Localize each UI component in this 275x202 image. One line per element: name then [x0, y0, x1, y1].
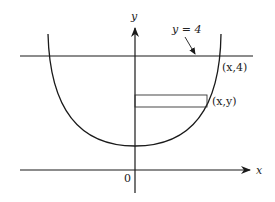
intersection-point-label: (x,4): [222, 61, 247, 74]
diagram-canvas: y x 0 y = 4 (x,4) (x,y): [0, 0, 275, 202]
origin-label: 0: [124, 172, 131, 185]
line-label-text: y = 4: [171, 23, 201, 36]
line-y-equals-4-label: y = 4: [171, 23, 201, 36]
strip-point-label: (x,y): [212, 95, 237, 108]
x-axis-label: x: [256, 164, 263, 177]
horizontal-strip: [135, 95, 207, 107]
diagram-svg: y x 0 y = 4 (x,4) (x,y): [0, 0, 275, 202]
y-axis-label: y: [130, 10, 138, 23]
y-equals-4-pointer-arrow: [185, 37, 195, 54]
